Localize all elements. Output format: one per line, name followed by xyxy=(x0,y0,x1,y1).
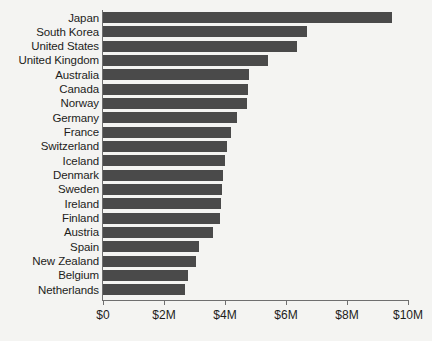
bar xyxy=(103,170,223,181)
bar xyxy=(103,284,185,295)
bar-category-label: New Zealand xyxy=(32,254,99,268)
bar-row: Canada xyxy=(0,82,432,96)
bar xyxy=(103,270,188,281)
bar-track xyxy=(103,12,392,23)
bar-row: Sweden xyxy=(0,182,432,196)
bar-category-label: Australia xyxy=(55,68,99,82)
bar xyxy=(103,155,225,166)
bar-category-label: Denmark xyxy=(53,168,99,182)
bar-chart: JapanSouth KoreaUnited StatesUnited King… xyxy=(0,0,432,341)
bar-track xyxy=(103,213,220,224)
bar xyxy=(103,55,268,66)
bar-track xyxy=(103,112,237,123)
bar-track xyxy=(103,170,223,181)
bar-category-label: South Korea xyxy=(36,25,99,39)
bar xyxy=(103,227,213,238)
bar-row: Norway xyxy=(0,96,432,110)
bar-category-label: Norway xyxy=(61,96,99,110)
bar-category-label: Netherlands xyxy=(38,283,99,297)
bar-row: Spain xyxy=(0,240,432,254)
x-tick-mark xyxy=(408,300,409,305)
bar xyxy=(103,69,249,80)
y-axis-line xyxy=(102,10,103,301)
bar-track xyxy=(103,270,188,281)
bar xyxy=(103,26,307,37)
bar-track xyxy=(103,98,247,109)
bar-category-label: Belgium xyxy=(58,268,99,282)
bar-category-label: Germany xyxy=(52,111,99,125)
bar-row: New Zealand xyxy=(0,254,432,268)
x-axis-line xyxy=(103,300,408,301)
bar-row: Denmark xyxy=(0,168,432,182)
bar xyxy=(103,241,199,252)
x-tick-mark xyxy=(286,300,287,305)
bar-track xyxy=(103,55,268,66)
bar xyxy=(103,41,297,52)
bar-row: France xyxy=(0,125,432,139)
bar xyxy=(103,198,221,209)
bar-category-label: Switzerland xyxy=(41,139,99,153)
x-tick-label: $10M xyxy=(393,308,423,322)
bar-row: Finland xyxy=(0,211,432,225)
bar-row: Switzerland xyxy=(0,139,432,153)
x-tick-label: $4M xyxy=(213,308,236,322)
bar-category-label: Finland xyxy=(62,211,99,225)
bar-category-label: Japan xyxy=(68,11,99,25)
bar-row: Belgium xyxy=(0,268,432,282)
plot-area: JapanSouth KoreaUnited StatesUnited King… xyxy=(0,0,432,341)
bar-track xyxy=(103,41,297,52)
bar xyxy=(103,141,227,152)
bar xyxy=(103,98,247,109)
bar-category-label: France xyxy=(64,125,99,139)
x-tick-mark xyxy=(347,300,348,305)
bar xyxy=(103,112,237,123)
bar-row: Germany xyxy=(0,111,432,125)
bar-category-label: Austria xyxy=(64,225,99,239)
bar-category-label: United Kingdom xyxy=(19,53,99,67)
bar-row: Iceland xyxy=(0,154,432,168)
bar-row: South Korea xyxy=(0,25,432,39)
bar-track xyxy=(103,284,185,295)
bar-category-label: Canada xyxy=(59,82,99,96)
bar-track xyxy=(103,69,249,80)
bar-track xyxy=(103,141,227,152)
bar-category-label: United States xyxy=(31,39,99,53)
bar-row: Ireland xyxy=(0,197,432,211)
x-tick-label: $8M xyxy=(335,308,358,322)
bar-row: Austria xyxy=(0,225,432,239)
bar-row: Japan xyxy=(0,11,432,25)
bar-track xyxy=(103,241,199,252)
bar xyxy=(103,184,222,195)
x-tick-label: $0 xyxy=(96,308,109,322)
bar-track xyxy=(103,127,231,138)
bar-track xyxy=(103,227,213,238)
bar-category-label: Sweden xyxy=(58,182,99,196)
bar-track xyxy=(103,256,196,267)
bar-category-label: Spain xyxy=(70,240,99,254)
bar-track xyxy=(103,198,221,209)
bar-row: Australia xyxy=(0,68,432,82)
bar-track xyxy=(103,26,307,37)
bar-row: Netherlands xyxy=(0,283,432,297)
bar xyxy=(103,256,196,267)
x-tick-mark xyxy=(103,300,104,305)
x-tick-label: $2M xyxy=(152,308,175,322)
bar-track xyxy=(103,184,222,195)
bar-row: United States xyxy=(0,39,432,53)
x-tick-mark xyxy=(225,300,226,305)
bar-category-label: Ireland xyxy=(65,197,99,211)
bar-category-label: Iceland xyxy=(63,154,99,168)
bar xyxy=(103,84,248,95)
bar-track xyxy=(103,84,248,95)
bar xyxy=(103,213,220,224)
x-tick-mark xyxy=(164,300,165,305)
bar-track xyxy=(103,155,225,166)
bar xyxy=(103,12,392,23)
bar xyxy=(103,127,231,138)
bar-row: United Kingdom xyxy=(0,53,432,67)
x-tick-label: $6M xyxy=(274,308,297,322)
